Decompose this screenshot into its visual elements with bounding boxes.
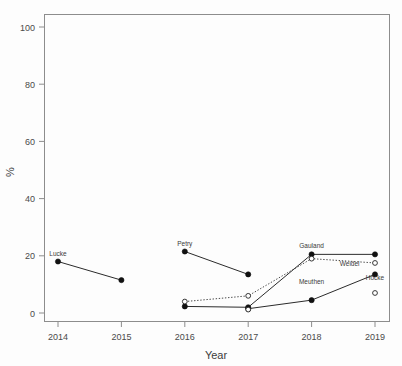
series-label-lucke: Lucke	[49, 250, 67, 257]
y-axis-title: %	[4, 167, 16, 177]
data-point-weidel-2017	[246, 293, 251, 298]
series-label-höcke: Höcke	[366, 274, 385, 281]
y-tick-label-40: 40	[25, 194, 35, 204]
x-tick-label-2015: 2015	[111, 332, 131, 342]
x-tick-label-2018: 2018	[302, 332, 322, 342]
data-point-weidel-2019	[373, 261, 378, 266]
y-tick-label-80: 80	[25, 80, 35, 90]
x-tick-label-2019: 2019	[365, 332, 385, 342]
chart-container: 100 80 60 40 20 0 % 2014 2015 2016 2017 …	[0, 0, 402, 366]
y-tick-label-60: 60	[25, 137, 35, 147]
data-point-gauland-2019	[372, 252, 377, 257]
data-point-lucke-2014	[55, 259, 60, 264]
y-tick-label-20: 20	[25, 251, 35, 261]
data-point-höcke-2019	[373, 291, 378, 296]
data-point-petry-2017	[246, 272, 251, 277]
data-point-höcke-2017	[246, 307, 251, 312]
x-tick-label-2017: 2017	[238, 332, 258, 342]
x-tick-label-2016: 2016	[175, 332, 195, 342]
line-chart-plot: 100 80 60 40 20 0 % 2014 2015 2016 2017 …	[0, 0, 402, 366]
data-point-meuthen-2018	[309, 298, 314, 303]
data-point-weidel-2018	[309, 256, 314, 261]
data-point-petry-2016	[182, 249, 187, 254]
series-label-meuthen: Meuthen	[299, 278, 325, 285]
x-tick-label-2014: 2014	[48, 332, 68, 342]
y-tick-label-0: 0	[30, 309, 35, 319]
series-label-petry: Petry	[177, 240, 193, 248]
y-tick-label-100: 100	[20, 23, 35, 33]
data-point-gauland-2016	[182, 304, 187, 309]
data-point-lucke-2015	[119, 278, 124, 283]
series-label-weidel: Weidel	[340, 260, 360, 267]
data-point-weidel-2016	[182, 299, 187, 304]
series-label-gauland: Gauland	[299, 242, 324, 249]
x-axis-title: Year	[205, 349, 228, 361]
chart-background	[0, 0, 402, 366]
